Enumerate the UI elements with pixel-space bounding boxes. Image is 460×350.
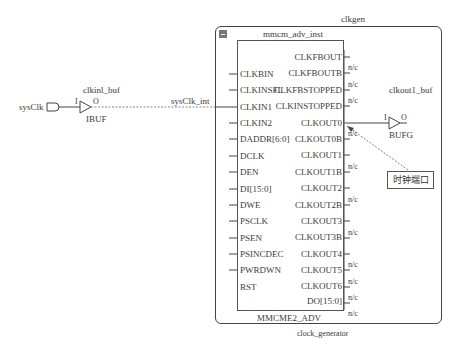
pin-clkout4[interactable]: CLKOUT4 <box>301 249 342 259</box>
pin-clkfbstopped[interactable]: CLKFBSTOPPED <box>274 85 342 95</box>
pin-clkin2[interactable]: CLKIN2 <box>240 118 272 128</box>
pin-clkfboutb[interactable]: CLKFBOUTB <box>288 68 342 78</box>
pin-psclk[interactable]: PSCLK <box>240 216 268 226</box>
pin-clkout3b[interactable]: CLKOUT3B <box>295 232 342 242</box>
pin-clkout2b[interactable]: CLKOUT2B <box>295 200 342 210</box>
pin-clkout2[interactable]: CLKOUT2 <box>301 183 342 193</box>
ibuf-instance-name: clkinl_buf <box>83 85 120 95</box>
ibuf-pin-i: I <box>75 97 78 107</box>
pin-clkin1[interactable]: CLKIN1 <box>240 102 272 112</box>
pin-clkfbout[interactable]: CLKFBOUT <box>294 52 342 62</box>
pin-clkout1[interactable]: CLKOUT1 <box>301 150 342 160</box>
bufg-pin-i: I <box>384 113 387 123</box>
nc-clkfboutb: n/c <box>348 63 358 73</box>
nc-clkout0b: n/c <box>348 129 358 139</box>
pin-den[interactable]: DEN <box>240 167 259 177</box>
pin-clkinstopped[interactable]: CLKINSTOPPED <box>276 101 342 111</box>
pin-clkbin[interactable]: CLKBIN <box>240 69 274 79</box>
pin-clkout0b[interactable]: CLKOUT0B <box>295 134 342 144</box>
collapse-icon[interactable] <box>219 30 227 38</box>
pin-rst[interactable]: RST <box>240 282 257 292</box>
pin-psincdec[interactable]: PSINCDEC <box>240 249 284 259</box>
pin-psen[interactable]: PSEN <box>240 233 262 243</box>
pin-pwrdwn[interactable]: PWRDWN <box>240 265 281 275</box>
nc-clkout6: n/c <box>348 277 358 287</box>
bufg-cell-type[interactable]: BUFG <box>389 130 413 140</box>
pin-clkout3[interactable]: CLKOUT3 <box>301 216 342 226</box>
nc-clkinstopped: n/c <box>348 96 358 106</box>
nc-clkfbstopped: n/c <box>348 80 358 90</box>
nc-drdy: n/c <box>348 309 358 319</box>
pin-dwe[interactable]: DWE <box>240 200 261 210</box>
bufg-instance-name: clkout1_buf <box>389 85 433 95</box>
pin-do[interactable]: DO[15:0] <box>307 296 342 306</box>
input-port-icon <box>47 103 59 111</box>
ibuf-pin-o: O <box>93 97 99 107</box>
bufg-pin-o: O <box>401 113 407 123</box>
input-port-label[interactable]: sysClk <box>19 102 44 112</box>
nc-clkout2b: n/c <box>348 195 358 205</box>
pin-clkout0[interactable]: CLKOUT0 <box>301 118 342 128</box>
nc-clkout5: n/c <box>348 260 358 270</box>
nc-clkout1b: n/c <box>348 162 358 172</box>
nc-do: n/c <box>348 293 358 303</box>
pin-clkout6[interactable]: CLKOUT6 <box>301 281 342 291</box>
module-name-label: clock_generator <box>297 329 349 339</box>
ibuf-triangle-icon <box>80 101 91 113</box>
annotation-box: 时钟端口 <box>387 171 434 189</box>
cell-type-label: MMCME2_ADV <box>257 313 321 323</box>
ibuf-cell-type[interactable]: IBUF <box>86 114 107 124</box>
net-label[interactable]: sysClk_int <box>171 96 210 106</box>
pin-dclk[interactable]: DCLK <box>240 151 265 161</box>
pin-daddr[interactable]: DADDR[6:0] <box>240 134 290 144</box>
pin-clkout5[interactable]: CLKOUT5 <box>301 265 342 275</box>
pin-di[interactable]: DI[15:0] <box>240 184 272 194</box>
cell-instance-name: mmcm_adv_inst <box>263 29 323 39</box>
module-instance-name: clkgen <box>341 14 365 24</box>
pin-clkout1b[interactable]: CLKOUT1B <box>295 167 342 177</box>
nc-clkout3b: n/c <box>348 228 358 238</box>
